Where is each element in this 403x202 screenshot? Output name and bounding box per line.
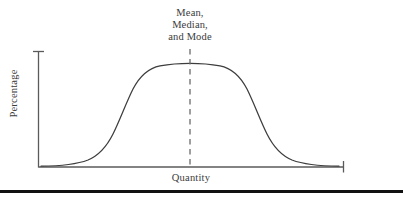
y-axis-title: Percentage [8, 59, 19, 129]
distribution-chart-figure: Mean, Median, and Mode Percentage Quanti… [0, 0, 403, 202]
annotation-line-1: Mean, [130, 7, 250, 19]
x-axis-title: Quantity [141, 172, 241, 183]
bottom-horizontal-rule [0, 190, 403, 193]
annotation-line-3: and Mode [130, 31, 250, 43]
annotation-line-2: Median, [130, 19, 250, 31]
mean-median-mode-label: Mean, Median, and Mode [130, 7, 250, 44]
